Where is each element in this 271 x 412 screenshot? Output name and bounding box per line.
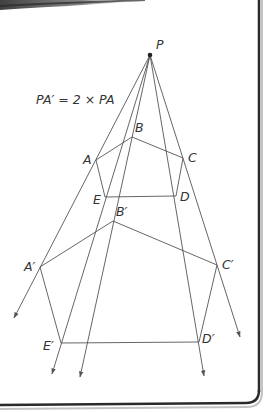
label-A-prime: A′ [23,259,36,274]
label-P: P [156,37,164,52]
label-E: E [93,192,101,207]
page-frame [0,0,262,409]
label-E-prime: E′ [43,338,54,353]
label-A: A [82,152,92,167]
label-B-prime: B′ [116,204,128,219]
label-B: B [135,120,144,135]
label-D-prime: D′ [202,331,215,346]
enlargement-diagram: PABCDEA′B′C′D′E′ PA′ = 2 × PA [0,0,271,412]
vertex-labels: PABCDEA′B′C′D′E′ [23,37,234,353]
label-D: D [180,189,190,204]
scale-equation: PA′ = 2 × PA [36,92,115,107]
label-C: C [188,150,197,165]
centre-point-P [148,53,153,58]
label-C-prime: C′ [222,257,234,272]
bottom-border [0,390,259,405]
ray-through-D [150,55,204,376]
diagram-canvas: PABCDEA′B′C′D′E′ PA′ = 2 × PA [0,0,271,412]
pentagon-A-prime-E-prime [40,221,217,343]
